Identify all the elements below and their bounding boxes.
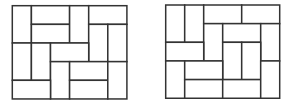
domino-vertical xyxy=(31,43,50,80)
domino-horizontal xyxy=(185,80,223,99)
tiling-left xyxy=(12,6,127,99)
domino-vertical xyxy=(108,62,127,99)
domino-horizontal xyxy=(31,6,69,25)
domino-horizontal xyxy=(70,80,108,99)
tiling-right xyxy=(166,5,280,98)
domino-vertical xyxy=(166,5,185,42)
domino-vertical xyxy=(261,24,280,61)
domino-horizontal xyxy=(70,62,108,81)
domino-horizontal xyxy=(51,43,89,62)
domino-horizontal xyxy=(204,5,242,24)
domino-vertical xyxy=(108,24,127,61)
domino-horizontal xyxy=(166,42,204,61)
domino-horizontal xyxy=(242,5,280,24)
domino-tiling-diagram xyxy=(0,0,290,105)
domino-horizontal xyxy=(12,80,50,99)
domino-vertical xyxy=(51,62,70,99)
domino-vertical xyxy=(223,42,242,79)
domino-vertical xyxy=(185,5,204,42)
domino-horizontal xyxy=(31,24,69,43)
domino-vertical xyxy=(166,61,185,98)
domino-vertical xyxy=(204,24,223,61)
domino-vertical xyxy=(12,6,31,43)
domino-vertical xyxy=(70,6,89,43)
domino-horizontal xyxy=(223,24,261,43)
domino-vertical xyxy=(242,42,261,79)
domino-vertical xyxy=(261,61,280,98)
domino-horizontal xyxy=(223,80,261,99)
domino-vertical xyxy=(89,24,108,61)
domino-vertical xyxy=(12,43,31,80)
domino-horizontal xyxy=(185,61,223,80)
domino-horizontal xyxy=(89,6,127,25)
